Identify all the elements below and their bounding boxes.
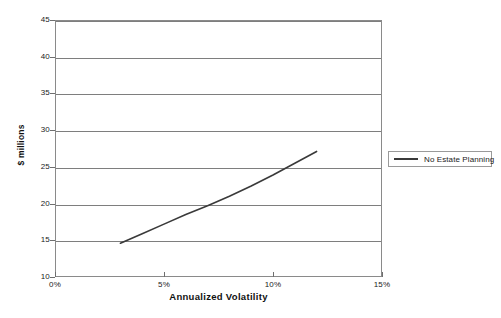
y-axis-tick-mark — [50, 57, 55, 58]
y-axis-tick-mark — [50, 20, 55, 21]
y-axis-title: $ millions — [16, 105, 26, 185]
y-axis-tick-label: 35 — [20, 89, 50, 97]
gridline-horizontal — [56, 21, 381, 22]
y-axis-tick-label: 40 — [20, 53, 50, 61]
y-axis-tick-mark — [50, 204, 55, 205]
y-axis-tick-label: 45 — [20, 16, 50, 24]
gridline-horizontal — [56, 168, 381, 169]
y-axis-tick-mark — [50, 167, 55, 168]
y-axis-tick-mark — [50, 130, 55, 131]
x-axis-tick-mark — [382, 272, 383, 277]
x-axis-tick-mark — [55, 272, 56, 277]
x-axis-tick-label: 0% — [35, 281, 75, 289]
gridline-horizontal — [56, 131, 381, 132]
plot-area — [55, 20, 382, 277]
gridline-horizontal — [56, 58, 381, 59]
gridline-horizontal — [56, 205, 381, 206]
x-axis-title: Annualized Volatility — [55, 291, 382, 302]
chart-legend[interactable]: No Estate Planning — [388, 151, 492, 167]
legend-item-label: No Estate Planning — [424, 155, 494, 164]
y-axis-tick-mark — [50, 277, 55, 278]
y-axis-tick-label: 10 — [20, 273, 50, 281]
y-axis-tick-label: 15 — [20, 236, 50, 244]
gridline-horizontal — [56, 241, 381, 242]
x-axis-tick-label: 15% — [362, 281, 402, 289]
y-axis-tick-label: 20 — [20, 200, 50, 208]
x-axis-tick-mark — [273, 272, 274, 277]
y-axis-tick-mark — [50, 240, 55, 241]
chart-container: 1015202530354045 0%5%10%15% $ millions A… — [0, 0, 501, 318]
gridline-horizontal — [56, 94, 381, 95]
y-axis-tick-mark — [50, 93, 55, 94]
x-axis-tick-label: 5% — [144, 281, 184, 289]
x-axis-tick-mark — [164, 272, 165, 277]
x-axis-tick-label: 10% — [253, 281, 293, 289]
legend-line-swatch — [394, 158, 418, 160]
